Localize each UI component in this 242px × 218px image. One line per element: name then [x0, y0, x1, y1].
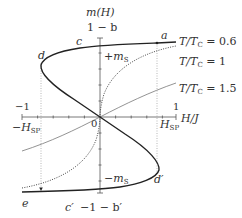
y-axis-label: m(H): [86, 6, 115, 19]
point-e-label: e: [22, 197, 29, 210]
x-tick-one: 1: [173, 101, 179, 112]
ms-positive-label: +mS: [104, 50, 129, 64]
curve-label-t-1-5: T/TC = 1.5: [179, 82, 236, 96]
curve-label-t-0-6: T/TC = 0.6: [179, 35, 236, 49]
point-c-prime-label: c′: [65, 201, 74, 214]
point-d-prime-label: d′: [154, 173, 164, 186]
x-axis-label: H/J: [180, 112, 199, 125]
x-tick-minus-one: −1: [15, 101, 30, 112]
point-a-label: a: [161, 29, 168, 42]
y-bottom-label: −1 − b′: [80, 201, 122, 214]
h-sp-positive-label: HSP: [159, 118, 179, 132]
h-sp-negative-label: −HSP: [12, 121, 41, 135]
curve-label-t-1: T/TC = 1: [179, 55, 226, 69]
y-top-label: 1 − b: [87, 21, 117, 34]
point-c-label: c: [76, 35, 82, 48]
ms-negative-label: −mS: [104, 172, 129, 186]
origin-label: 0: [91, 118, 97, 129]
point-d-label: d: [38, 49, 45, 62]
hysteresis-diagram: m(H) 1 − b −1 − b′ H/J −1 1 0 HSP −HSP +…: [0, 0, 242, 218]
